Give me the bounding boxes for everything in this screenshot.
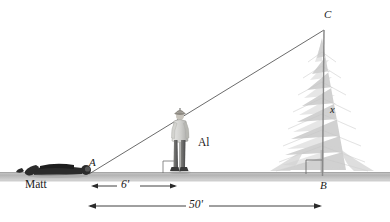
geometry-figure: A B C x Matt Al 6' 50' xyxy=(0,0,390,222)
dimension-label-50ft: 50' xyxy=(189,199,203,211)
variable-label-x: x xyxy=(330,105,335,116)
person-al-figure xyxy=(169,108,191,174)
point-label-A: A xyxy=(89,157,96,168)
dimension-label-6ft: 6' xyxy=(121,179,129,191)
point-label-C: C xyxy=(324,9,331,20)
person-label-matt: Matt xyxy=(25,179,47,191)
dimension-50ft-line xyxy=(88,203,322,209)
person-label-al: Al xyxy=(198,137,210,149)
dimension-6ft-line xyxy=(91,183,177,188)
point-label-B: B xyxy=(320,180,327,191)
segment-AC xyxy=(89,30,324,174)
